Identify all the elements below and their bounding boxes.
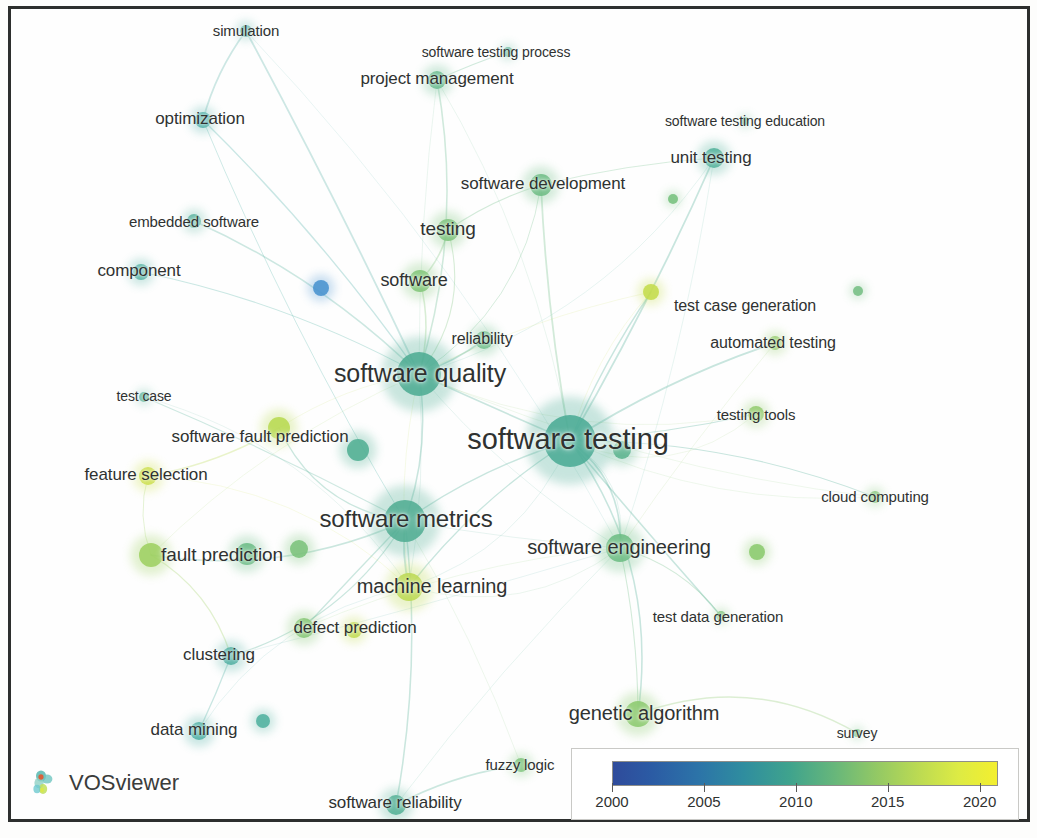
node-embedded-software[interactable]	[187, 214, 201, 228]
node-fault-prediction[interactable]	[139, 543, 163, 567]
node-software[interactable]	[409, 270, 431, 292]
legend-tick-label: 2005	[687, 793, 720, 810]
node-reliability[interactable]	[475, 331, 493, 349]
node-machine-learning[interactable]	[395, 573, 423, 601]
node-software-engineering[interactable]	[606, 534, 634, 562]
node-cloud-computing[interactable]	[869, 491, 881, 503]
node-component[interactable]	[133, 264, 149, 280]
node-unlabeled[interactable]	[290, 540, 308, 558]
node-optimization[interactable]	[195, 112, 211, 128]
node-clustering[interactable]	[222, 647, 240, 665]
node-unlabeled[interactable]	[668, 194, 678, 204]
node-software-metrics[interactable]	[384, 500, 426, 542]
network-canvas[interactable]: simulationsoftware testing processprojec…	[11, 9, 1027, 819]
node-unlabeled[interactable]	[256, 714, 270, 728]
figure-border-right	[1027, 6, 1030, 822]
node-testing-tools[interactable]	[748, 406, 764, 422]
node-software-reliability[interactable]	[386, 795, 406, 815]
network-edges	[11, 9, 1027, 819]
node-software-fault-prediction[interactable]	[268, 417, 290, 439]
node-project-management[interactable]	[428, 71, 446, 89]
node-automated-testing[interactable]	[768, 336, 782, 350]
node-unlabeled[interactable]	[347, 439, 369, 461]
node-software-testing-education[interactable]	[741, 117, 749, 125]
node-fuzzy-logic[interactable]	[514, 758, 528, 772]
node-unlabeled[interactable]	[613, 441, 631, 459]
legend-tick-label: 2010	[779, 793, 812, 810]
node-defect-prediction[interactable]	[294, 618, 314, 638]
node-software-development[interactable]	[530, 174, 552, 196]
node-unlabeled[interactable]	[346, 622, 362, 638]
node-test-case-generation[interactable]	[643, 284, 659, 300]
legend-tick-mark	[796, 783, 797, 792]
vosviewer-figure: simulationsoftware testing processprojec…	[0, 0, 1037, 838]
node-software-quality[interactable]	[397, 352, 441, 396]
legend-tick-mark	[612, 783, 613, 792]
vosviewer-logo-icon	[30, 768, 60, 798]
node-survey[interactable]	[853, 729, 861, 737]
node-unlabeled[interactable]	[313, 280, 329, 296]
vosviewer-logo: VOSviewer	[30, 768, 179, 798]
node-simulation[interactable]	[240, 25, 252, 37]
color-scale-legend: 20002005201020152020	[571, 748, 1019, 820]
color-gradient-bar	[612, 761, 998, 786]
legend-tick-label: 2020	[963, 793, 996, 810]
node-test-data-generation[interactable]	[716, 611, 726, 621]
legend-tick-mark	[980, 783, 981, 792]
legend-tick-mark	[704, 783, 705, 792]
node-test-case[interactable]	[139, 392, 149, 402]
node-software-testing[interactable]	[544, 415, 596, 467]
legend-tick-mark	[888, 783, 889, 792]
node-software-testing-process[interactable]	[503, 47, 513, 57]
node-testing[interactable]	[437, 219, 459, 241]
node-data-mining[interactable]	[190, 722, 208, 740]
node-feature-selection[interactable]	[139, 467, 157, 485]
node-unlabeled[interactable]	[749, 544, 765, 560]
node-unlabeled[interactable]	[236, 543, 258, 565]
node-genetic-algorithm[interactable]	[625, 701, 651, 727]
node-unit-testing[interactable]	[704, 148, 724, 168]
legend-tick-label: 2015	[871, 793, 904, 810]
legend-tick-label: 2000	[595, 793, 628, 810]
vosviewer-wordmark: VOSviewer	[69, 770, 179, 796]
node-unlabeled[interactable]	[853, 286, 863, 296]
